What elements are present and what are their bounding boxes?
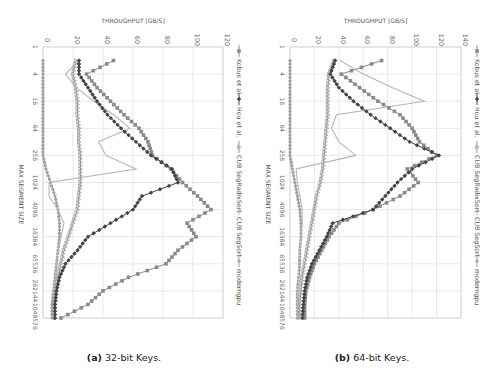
square-marker [358, 86, 362, 90]
square-marker [187, 225, 191, 229]
tick-label: 16384 [279, 227, 286, 246]
legend-item: Kobus et al. [474, 45, 481, 96]
square-marker [401, 116, 405, 120]
tick-label: 4 [279, 72, 286, 76]
square-marker [340, 72, 344, 76]
circle-marker [58, 225, 61, 228]
circle-marker [46, 171, 49, 174]
circle-marker [288, 69, 291, 72]
circle-marker [41, 117, 44, 120]
square-marker [197, 215, 201, 219]
square-marker [382, 103, 386, 107]
circle-marker [288, 120, 291, 123]
tick-label: 64 [279, 124, 286, 132]
circle-marker [44, 167, 47, 170]
diamond-marker [475, 97, 479, 101]
square-marker [385, 201, 389, 205]
tick-label: 60 [133, 36, 141, 44]
square-marker [192, 232, 196, 236]
square-marker [130, 120, 134, 124]
circle-marker [288, 62, 291, 65]
square-marker [416, 137, 420, 141]
circle-marker [41, 96, 44, 99]
circle-marker [288, 117, 291, 120]
square-marker [97, 292, 101, 296]
legend-label: CUB SegSort [473, 217, 481, 258]
square-marker [155, 265, 159, 269]
square-marker [79, 306, 83, 310]
legend-label: moderngpu [235, 269, 243, 305]
circle-marker [290, 161, 293, 164]
tick-label: 4 [32, 72, 39, 76]
square-marker [414, 177, 418, 181]
circle-marker [288, 73, 291, 76]
circle-marker [41, 150, 44, 153]
caption-label-a: (a) [87, 352, 102, 363]
circle-marker [41, 69, 44, 72]
legend-item: Kobus et al. [236, 45, 243, 96]
circle-marker [294, 184, 297, 187]
circle-marker [48, 178, 51, 181]
square-marker [237, 49, 241, 53]
circle-marker [288, 154, 291, 157]
diamond-marker [108, 221, 112, 225]
square-marker [332, 228, 336, 232]
circle-marker [41, 89, 44, 92]
series-hou-et-al- [53, 58, 180, 320]
square-marker [112, 103, 116, 107]
circle-marker [288, 123, 291, 126]
square-marker [410, 127, 414, 131]
square-marker [176, 248, 180, 252]
circle-marker [296, 198, 299, 201]
circle-marker [41, 137, 44, 140]
square-marker [376, 99, 380, 103]
circle-marker [57, 215, 60, 218]
circle-marker [288, 150, 291, 153]
square-marker [194, 235, 198, 239]
square-marker [370, 62, 374, 66]
circle-marker [41, 86, 44, 89]
circle-marker [41, 93, 44, 96]
chart-32bit-keys: 020406080100120THROUGHPUT [GB/S]14166425… [0, 0, 248, 350]
square-marker [139, 130, 143, 134]
diamond-marker [91, 231, 95, 235]
square-marker [190, 238, 194, 242]
square-marker [191, 218, 195, 222]
square-marker [59, 316, 63, 320]
square-marker [185, 242, 189, 246]
tick-label: 20 [73, 36, 81, 44]
tick-label: 100 [193, 34, 201, 46]
throughput-axis-ticks: 020406080100120140 [290, 34, 469, 46]
square-marker [349, 79, 353, 83]
square-marker [188, 187, 192, 191]
circle-marker [288, 140, 291, 143]
square-marker [164, 262, 168, 266]
circle-marker [44, 164, 47, 167]
square-marker [344, 76, 348, 80]
circle-marker [54, 198, 57, 201]
series-kobus-et-al- [303, 59, 439, 320]
square-marker [94, 296, 98, 300]
square-marker [148, 147, 152, 151]
circle-marker [41, 66, 44, 69]
circle-marker [288, 137, 291, 140]
throughput-axis-ticks: 020406080100120 [43, 34, 231, 46]
circle-marker [288, 59, 291, 62]
square-marker [120, 279, 124, 283]
tick-label: 256 [32, 150, 39, 162]
circle-marker [41, 100, 44, 103]
circle-marker [295, 188, 298, 191]
circle-marker [41, 103, 44, 106]
circle-marker [288, 130, 291, 133]
circle-marker [53, 194, 56, 197]
caption-text-a: 32-bit Keys. [105, 352, 161, 363]
square-marker [398, 113, 402, 117]
square-marker [90, 299, 94, 303]
circle-marker [298, 208, 301, 211]
tick-label: 1024 [32, 175, 39, 190]
grid-lines [290, 47, 461, 318]
circle-marker [41, 83, 44, 86]
square-marker [398, 194, 402, 198]
square-marker [87, 76, 91, 80]
square-marker [412, 184, 416, 188]
